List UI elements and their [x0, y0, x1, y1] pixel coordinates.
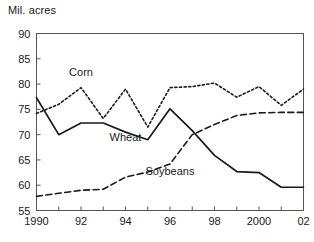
series-label-soybeans: Soybeans [146, 165, 195, 177]
chart-container: Mil. acres 5560657075808590 199092949698… [0, 0, 314, 242]
plot-frame [37, 34, 304, 211]
series-label-corn: Corn [69, 66, 93, 78]
y-tick-label: 90 [18, 28, 30, 40]
x-tick-label: 2000 [247, 215, 271, 227]
series-label-wheat: Wheat [110, 131, 142, 143]
x-tick-label: 94 [119, 215, 131, 227]
series-annotation-labels: CornWheatSoybeans [69, 66, 195, 177]
y-tick-label: 70 [18, 129, 30, 141]
y-tick-label: 65 [18, 154, 30, 166]
x-axis-ticks: 199092949698200002 [24, 207, 309, 227]
y-tick-label: 60 [18, 179, 30, 191]
y-tick-label: 75 [18, 103, 30, 115]
x-tick-label: 98 [208, 215, 220, 227]
x-tick-label: 02 [297, 215, 309, 227]
data-series-group [37, 83, 304, 196]
line-chart-svg: 5560657075808590 199092949698200002 Corn… [0, 0, 314, 242]
y-axis-ticks: 5560657075808590 [18, 28, 40, 217]
x-tick-label: 96 [164, 215, 176, 227]
y-tick-label: 85 [18, 53, 30, 65]
x-tick-label: 1990 [24, 215, 48, 227]
y-tick-label: 80 [18, 78, 30, 90]
series-line-corn [37, 83, 304, 127]
x-tick-label: 92 [75, 215, 87, 227]
